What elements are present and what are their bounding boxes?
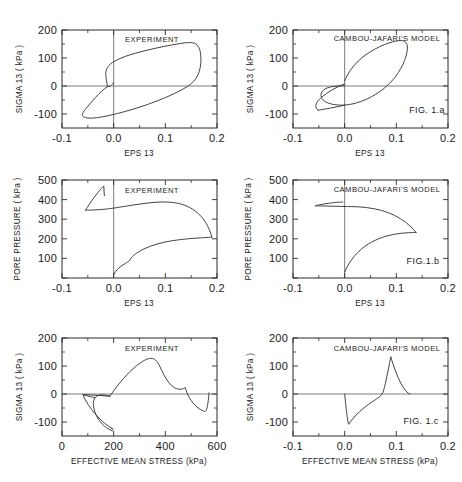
- figure-label: FIG.1.b: [407, 256, 440, 266]
- y-tick-label: 500: [38, 174, 57, 186]
- series-hysteresis-loop: [82, 43, 201, 119]
- data-curves: [345, 357, 410, 424]
- y-axis-title: SIGMA 13 ( kPa ): [15, 45, 24, 114]
- x-tick-label: -0.1: [52, 132, 72, 144]
- series-pore-pressure-unloading: [86, 202, 212, 237]
- y-tick-label: 0: [51, 80, 57, 92]
- panel-title: EXPERIMENT: [125, 186, 179, 195]
- y-axis-title: PORE PRESSURE ( kPa ): [13, 177, 22, 280]
- y-tick-label: 100: [38, 360, 57, 372]
- series-unloading-decay: [391, 357, 410, 394]
- series-reload-branch: [349, 357, 391, 424]
- series-stress-path-liquefaction: [93, 395, 112, 431]
- panel-b-model-plot: 500 400 300 200 100 -0.1 0.0 0.1 0.2 EPS…: [231, 160, 462, 320]
- panel-title: EXPERIMENT: [125, 35, 179, 44]
- x-tick-label: 200: [104, 440, 123, 452]
- series-hysteresis-loop: [321, 41, 407, 106]
- x-tick-label: -0.1: [283, 132, 303, 144]
- figure-label: FIG. 1.a: [409, 105, 445, 115]
- x-tick-label: 0.2: [440, 440, 456, 452]
- y-axis-title: SIGMA 13 ( kPa ): [15, 353, 24, 422]
- panel-b-model: 500 400 300 200 100 -0.1 0.0 0.1 0.2 EPS…: [231, 160, 462, 320]
- panel-c-model-plot: 200 100 0 -100 -0.1 0.0 0.1 0.2 EFFECTIV…: [231, 320, 462, 482]
- figure-sheet: 200 100 0 -100 -0.1 0.0 0.1 0.2 EPS 13 S…: [0, 0, 462, 482]
- x-tick-label: -0.1: [283, 440, 303, 452]
- series-descending-branch: [345, 394, 349, 424]
- x-tick-label: 0: [59, 440, 65, 452]
- y-tick-label: 200: [269, 233, 288, 245]
- y-tick-label: -100: [265, 108, 288, 120]
- x-tick-label: 0.0: [337, 282, 353, 294]
- series-pore-pressure-loading: [114, 237, 212, 274]
- panel-c-model: 200 100 0 -100 -0.1 0.0 0.1 0.2 EFFECTIV…: [231, 320, 462, 482]
- y-axis-title: PORE PRESSURE ( kPa ): [244, 177, 253, 280]
- panel-a-experiment: 200 100 0 -100 -0.1 0.0 0.1 0.2 EPS 13 S…: [0, 0, 231, 160]
- plot-frame: [62, 30, 217, 128]
- x-tick-label: 0.1: [388, 440, 404, 452]
- x-tick-label: 0.1: [157, 132, 173, 144]
- y-tick-label: 100: [269, 252, 288, 264]
- panel-c-experiment: 200 100 0 -100 0 200 400 600 EFFECTIVE M…: [0, 320, 231, 482]
- x-tick-label: 0.2: [440, 282, 456, 294]
- x-tick-label: -0.1: [283, 282, 303, 294]
- x-tick-label: 0.2: [440, 132, 456, 144]
- y-tick-label: 0: [282, 388, 288, 400]
- y-tick-label: 400: [269, 194, 288, 206]
- x-tick-label: 0.0: [106, 282, 122, 294]
- x-tick-label: 0.1: [157, 282, 173, 294]
- y-tick-label: 200: [38, 332, 57, 344]
- x-axis-title: EPS 13: [124, 149, 154, 158]
- x-tick-label: 0.2: [209, 132, 225, 144]
- y-tick-label: 100: [38, 52, 57, 64]
- series-pore-pressure-unloading: [345, 207, 416, 233]
- panel-title: EXPERIMENT: [125, 344, 179, 353]
- series-spike-tip: [104, 187, 105, 196]
- data-curves: [86, 187, 212, 275]
- series-plateau-branch: [316, 206, 345, 207]
- data-curves: [316, 202, 416, 272]
- series-stress-path-shear-up: [110, 358, 209, 411]
- y-tick-label: 0: [51, 388, 57, 400]
- y-tick-label: 100: [269, 52, 288, 64]
- panel-b-experiment-plot: 500 400 300 200 100 -0.1 0.0 0.1 0.2 EPS…: [0, 160, 231, 320]
- x-tick-label: -0.1: [52, 282, 72, 294]
- x-axis-title: EFFECTIVE MEAN STRESS (kPa): [71, 457, 207, 466]
- y-tick-label: -100: [265, 416, 288, 428]
- data-curves: [316, 41, 408, 111]
- data-curves: [82, 43, 201, 119]
- x-axis-title: EPS 13: [124, 299, 154, 308]
- x-axis-title: EPS 13: [355, 299, 385, 308]
- x-tick-label: 400: [156, 440, 175, 452]
- y-tick-label: -100: [34, 416, 57, 428]
- y-tick-label: 300: [269, 213, 288, 225]
- y-tick-label: 0: [282, 80, 288, 92]
- panel-a-experiment-plot: 200 100 0 -100 -0.1 0.0 0.1 0.2 EPS 13 S…: [0, 0, 231, 160]
- x-tick-label: 0.0: [337, 440, 353, 452]
- panel-a-model-plot: 200 100 0 -100 -0.1 0.0 0.1 0.2 EPS 13 S…: [231, 0, 462, 160]
- panel-title: CAMBOU-JAFARI'S MODEL: [334, 185, 441, 194]
- series-pore-pressure-loading: [345, 232, 416, 272]
- x-tick-label: 0.1: [388, 132, 404, 144]
- series-reload-branch: [316, 202, 343, 206]
- zero-axes: [62, 30, 217, 128]
- x-axis-title: EPS 13: [355, 149, 385, 158]
- y-axis-minor-ticks: [293, 44, 448, 100]
- y-tick-label: 200: [269, 332, 288, 344]
- panel-title: CAMBOU-JAFARI'S MODEL: [334, 344, 441, 353]
- figure-label: FIG. 1.c: [403, 416, 438, 426]
- panel-b-experiment: 500 400 300 200 100 -0.1 0.0 0.1 0.2 EPS…: [0, 160, 231, 320]
- y-tick-label: 100: [269, 360, 288, 372]
- x-tick-label: 0.0: [106, 132, 122, 144]
- y-tick-label: 400: [38, 194, 57, 206]
- y-tick-label: 300: [38, 213, 57, 225]
- x-tick-label: 600: [208, 440, 227, 452]
- x-axis-title: EFFECTIVE MEAN STRESS (kPa): [302, 457, 438, 466]
- y-tick-label: 100: [38, 252, 57, 264]
- x-axis-ticks: [62, 30, 217, 128]
- series-reload-spike: [86, 187, 104, 211]
- y-tick-label: 200: [269, 24, 288, 36]
- y-tick-label: 200: [38, 233, 57, 245]
- x-tick-label: 0.1: [388, 282, 404, 294]
- x-tick-label: 0.0: [337, 132, 353, 144]
- y-axis-title: SIGMA 13 ( kPa ): [246, 45, 255, 114]
